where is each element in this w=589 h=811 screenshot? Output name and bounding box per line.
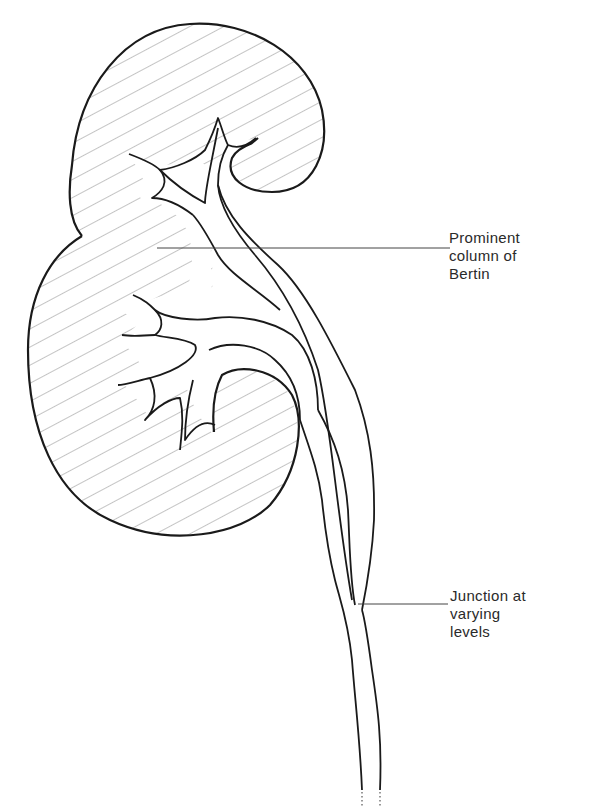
label-line: levels bbox=[450, 623, 526, 641]
label-line: varying bbox=[450, 605, 526, 623]
ureter-continuation-dots bbox=[362, 792, 380, 806]
label-line: Prominent bbox=[449, 229, 520, 247]
lower-ureter-left-wall bbox=[300, 420, 362, 790]
label-prominent-column-of-bertin: Prominent column of Bertin bbox=[449, 229, 520, 283]
label-line: Bertin bbox=[449, 265, 520, 283]
renal-parenchyma-hatching bbox=[28, 24, 324, 536]
common-ureter-right-wall bbox=[362, 610, 381, 790]
label-line: column of bbox=[449, 247, 520, 265]
kidney-diagram bbox=[0, 0, 589, 811]
label-junction-at-varying-levels: Junction at varying levels bbox=[450, 587, 526, 641]
label-line: Junction at bbox=[450, 587, 526, 605]
